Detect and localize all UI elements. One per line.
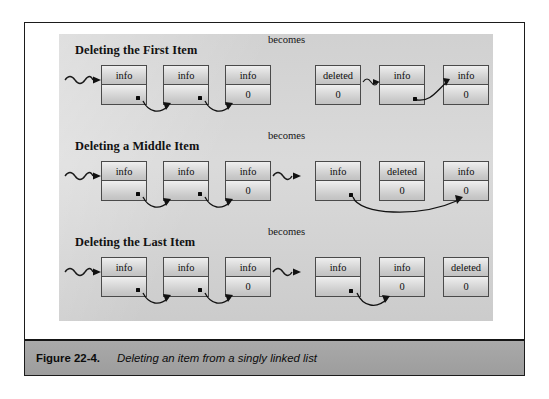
node-info-cell: info: [164, 258, 208, 277]
node-null-cell: 0: [316, 85, 360, 104]
node-pointer-cell: [102, 85, 146, 104]
node-before-1: info: [101, 65, 147, 105]
node-info-cell: info: [226, 66, 270, 85]
node-info-cell: info: [380, 258, 424, 277]
node-null-cell: 0: [380, 181, 424, 200]
node-after-1: info: [315, 257, 361, 297]
figure-number: Figure 22-4.: [36, 352, 100, 364]
node-null-cell: 0: [226, 181, 270, 200]
pointer-dot-icon: [136, 192, 140, 196]
diagram-panel: Deleting the First Item becomes info inf…: [59, 34, 493, 321]
node-pointer-cell: [380, 85, 424, 104]
becomes-label: becomes: [268, 34, 305, 45]
figure-caption-text: Deleting an item from a singly linked li…: [117, 352, 317, 364]
node-after-1: info: [315, 161, 361, 201]
node-info-cell: info: [380, 66, 424, 85]
head-pointer-squiggle-icon: [65, 77, 101, 84]
node-pointer-cell: [316, 181, 360, 200]
node-after-3: info 0: [443, 161, 489, 201]
node-info-cell: info: [164, 162, 208, 181]
row-title: Deleting a Middle Item: [75, 139, 199, 154]
node-after-2: info 0: [379, 257, 425, 297]
becomes-label: becomes: [268, 226, 305, 237]
node-before-2: info: [163, 65, 209, 105]
pointer-dot-icon: [136, 288, 140, 292]
node-null-cell: 0: [444, 85, 488, 104]
row-deleting-middle-item: Deleting a Middle Item becomes info info…: [59, 130, 493, 226]
head-pointer-squiggle-icon: [65, 173, 101, 180]
node-before-3: info 0: [225, 257, 271, 297]
node-before-1: info: [101, 257, 147, 297]
row-deleting-first-item: Deleting the First Item becomes info inf…: [59, 34, 493, 130]
pointer-dot-icon: [198, 96, 202, 100]
pointer-dot-icon: [413, 97, 417, 101]
figure-frame: Deleting the First Item becomes info inf…: [24, 22, 525, 376]
node-info-cell: info: [102, 258, 146, 277]
node-before-3: info 0: [225, 161, 271, 201]
node-deleted-cell: deleted: [380, 162, 424, 181]
node-before-1: info: [101, 161, 147, 201]
node-after-2: info: [379, 65, 425, 105]
head-pointer-squiggle-icon: [65, 269, 101, 276]
node-info-cell: info: [164, 66, 208, 85]
node-pointer-cell: [164, 85, 208, 104]
node-pointer-cell: [164, 181, 208, 200]
node-after-3: deleted 0: [443, 257, 489, 297]
node-before-3: info 0: [225, 65, 271, 105]
node-null-cell: 0: [226, 277, 270, 296]
node-before-2: info: [163, 257, 209, 297]
pointer-dot-icon: [198, 192, 202, 196]
pointer-dot-icon: [136, 96, 140, 100]
node-info-cell: info: [226, 258, 270, 277]
pointer-dot-icon: [349, 193, 353, 197]
node-deleted-cell: deleted: [444, 258, 488, 277]
node-info-cell: info: [444, 162, 488, 181]
node-null-cell: 0: [380, 277, 424, 296]
node-after-1: deleted 0: [315, 65, 361, 105]
head-pointer-squiggle-icon-after: [273, 269, 301, 276]
figure-caption-bar: Figure 22-4. Deleting an item from a sin…: [25, 339, 524, 375]
node-info-cell: info: [102, 162, 146, 181]
node-null-cell: 0: [444, 277, 488, 296]
node-pointer-cell: [102, 181, 146, 200]
head-pointer-squiggle-icon-after: [363, 79, 380, 85]
node-pointer-cell: [164, 277, 208, 296]
node-pointer-cell: [316, 277, 360, 296]
becomes-label: becomes: [268, 130, 305, 141]
node-deleted-cell: deleted: [316, 66, 360, 85]
node-info-cell: info: [316, 258, 360, 277]
node-pointer-cell: [102, 277, 146, 296]
node-after-3: info 0: [443, 65, 489, 105]
node-before-2: info: [163, 161, 209, 201]
node-info-cell: info: [226, 162, 270, 181]
head-pointer-squiggle-icon-after: [273, 173, 301, 180]
node-null-cell: 0: [444, 181, 488, 200]
node-null-cell: 0: [226, 85, 270, 104]
node-info-cell: info: [316, 162, 360, 181]
row-deleting-last-item: Deleting the Last Item becomes info info…: [59, 226, 493, 321]
row-title: Deleting the Last Item: [75, 235, 195, 250]
row-title: Deleting the First Item: [75, 43, 197, 58]
node-after-2: deleted 0: [379, 161, 425, 201]
node-info-cell: info: [102, 66, 146, 85]
node-info-cell: info: [444, 66, 488, 85]
pointer-dot-icon: [198, 288, 202, 292]
pointer-dot-icon: [349, 289, 353, 293]
